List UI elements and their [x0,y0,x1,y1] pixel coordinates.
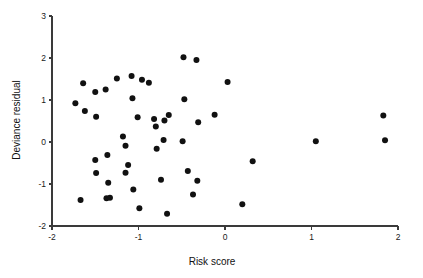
data-point [153,123,159,129]
data-point [181,96,187,102]
data-point [225,79,231,85]
data-point [72,100,78,106]
y-axis-tick-label: -2 [38,221,46,231]
data-point [93,114,99,120]
y-axis-tick-label: -1 [38,179,46,189]
y-axis-tick-label: 3 [41,11,46,21]
data-point [129,73,135,79]
data-point [123,170,129,176]
data-point [93,170,99,176]
data-points-layer [72,54,388,217]
data-point [146,80,152,86]
y-axis-tick-label: 0 [41,137,46,147]
data-point [382,137,388,143]
data-point [114,76,120,82]
data-point [130,186,136,192]
data-point [120,134,126,140]
scatter-plot-figure: -2-10123 -2-1012 Risk score Deviance res… [0,0,423,278]
data-point [195,119,201,125]
data-point [103,87,109,93]
data-point [135,114,141,120]
x-axis-tick-label: 0 [223,232,228,242]
chart-canvas: -2-10123 -2-1012 Risk score Deviance res… [0,0,423,278]
data-point [139,77,145,83]
y-axis-tick-label: 1 [41,95,46,105]
data-point [154,146,160,152]
data-point [166,112,172,118]
data-point [185,168,191,174]
x-axis: -2-1012 [48,226,400,242]
data-point [193,57,199,63]
data-point [104,152,110,158]
x-axis-tick-label: 2 [396,232,401,242]
data-point [194,178,200,184]
data-point [151,116,157,122]
data-point [164,211,170,217]
data-point [180,138,186,144]
data-point [129,95,135,101]
data-point [313,138,319,144]
data-point [158,177,164,183]
data-point [239,201,245,207]
data-point [92,89,98,95]
data-point [212,112,218,118]
data-point [161,137,167,143]
data-point [107,195,113,201]
data-point [180,54,186,60]
y-axis-tick-label: 2 [41,53,46,63]
data-point [125,162,131,168]
data-point [80,80,86,86]
y-axis: -2-10123 [38,11,52,231]
x-axis-tick-label: 1 [309,232,314,242]
data-point [105,180,111,186]
data-point [92,157,98,163]
data-point [82,108,88,114]
x-axis-tick-label: -2 [48,232,56,242]
data-point [380,113,386,119]
x-axis-title: Risk score [189,256,236,267]
data-point [123,143,129,149]
data-point [161,118,167,124]
data-point [250,158,256,164]
x-axis-tick-label: -1 [135,232,143,242]
data-point [136,205,142,211]
data-point [78,197,84,203]
y-axis-title: Deviance residual [11,80,22,160]
data-point [190,192,196,198]
